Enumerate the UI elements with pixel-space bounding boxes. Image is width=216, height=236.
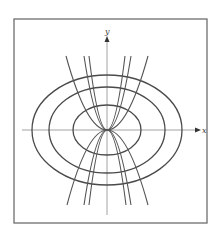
- x-axis-arrow-icon: [195, 128, 201, 133]
- parabola-down-wide: [67, 130, 148, 205]
- parabola-down-narrow: [89, 130, 126, 205]
- x-axis-label: x: [202, 126, 207, 135]
- orthogonal-trajectories-diagram: x y: [0, 0, 216, 236]
- figure-frame: [14, 19, 207, 223]
- y-axis-arrow-icon: [105, 36, 110, 42]
- y-axis-label: y: [104, 27, 110, 36]
